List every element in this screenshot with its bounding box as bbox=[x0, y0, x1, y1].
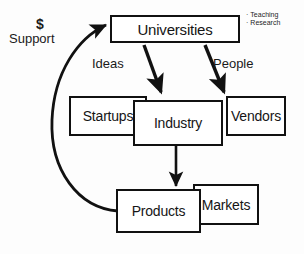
diagram-canvas: Universities Startups Vendors Industry M… bbox=[0, 0, 304, 254]
node-markets[interactable]: Markets bbox=[193, 184, 259, 225]
universities-annotation-list: · Teaching · Research bbox=[246, 11, 280, 28]
node-products[interactable]: Products bbox=[116, 189, 201, 233]
annotation-item-teaching: · Teaching bbox=[246, 11, 280, 19]
node-universities[interactable]: Universities bbox=[110, 15, 240, 43]
edge-universities-to-industry-ideas bbox=[144, 45, 161, 92]
node-vendors-label: Vendors bbox=[231, 108, 281, 124]
node-products-label: Products bbox=[132, 203, 186, 219]
annotation-item-research: · Research bbox=[246, 19, 280, 27]
bullet-icon: · bbox=[246, 11, 248, 18]
node-vendors[interactable]: Vendors bbox=[226, 96, 286, 136]
bullet-icon: · bbox=[246, 19, 248, 26]
node-universities-label: Universities bbox=[137, 21, 212, 38]
annotation-research-label: Research bbox=[250, 19, 280, 27]
edge-label-ideas: Ideas bbox=[92, 56, 124, 71]
edge-label-support: Support bbox=[9, 31, 55, 46]
node-markets-label: Markets bbox=[202, 197, 250, 213]
edge-label-money: $ bbox=[36, 16, 44, 32]
node-startups-label: Startups bbox=[83, 108, 134, 124]
node-industry-label: Industry bbox=[154, 115, 202, 131]
edge-label-people: People bbox=[213, 56, 253, 71]
annotation-teaching-label: Teaching bbox=[250, 11, 278, 19]
node-industry[interactable]: Industry bbox=[133, 100, 223, 146]
